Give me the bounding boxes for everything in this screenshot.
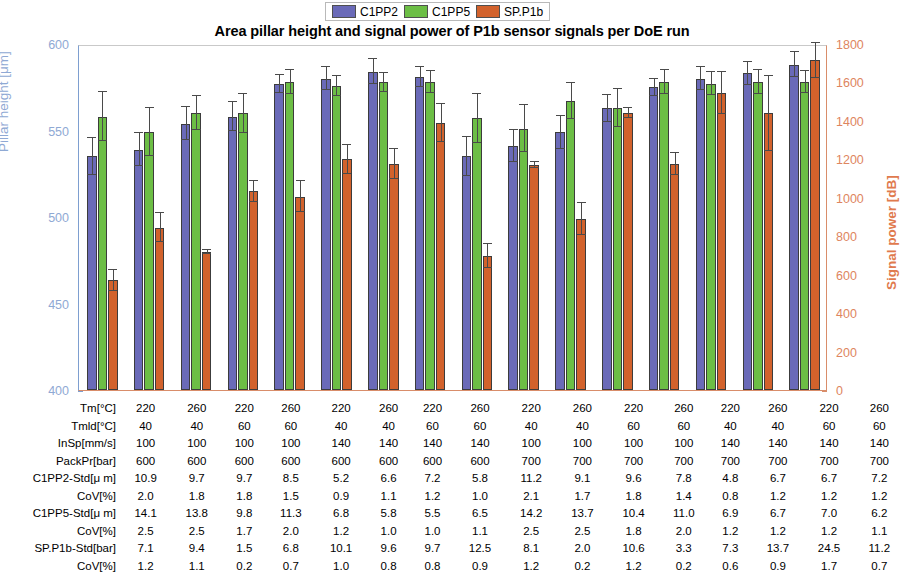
table-cell: 40 <box>557 418 608 436</box>
bar-c1pp2[interactable] <box>274 84 284 390</box>
error-cap-upper <box>342 144 351 145</box>
error-cap-upper <box>275 74 284 75</box>
table-cell: 1.7 <box>222 523 266 541</box>
error-bar <box>607 95 608 122</box>
error-cap-lower <box>426 92 435 93</box>
bar-sp-p1b[interactable] <box>202 252 212 390</box>
error-cap-lower <box>134 165 143 166</box>
bar-sp-p1b[interactable] <box>810 60 820 390</box>
bar-c1pp2[interactable] <box>789 65 799 390</box>
legend-item-c1pp5[interactable]: C1PP5 <box>404 5 470 19</box>
bar-c1pp5[interactable] <box>144 132 154 390</box>
left-tick-label: 500 <box>48 211 69 225</box>
bar-c1pp5[interactable] <box>285 82 295 390</box>
error-cap-upper <box>623 107 632 108</box>
table-cell: 9.7 <box>411 540 455 558</box>
bar-c1pp2[interactable] <box>462 156 472 390</box>
bar-c1pp5[interactable] <box>566 101 576 390</box>
bar-c1pp5[interactable] <box>706 84 716 390</box>
bar-c1pp5[interactable] <box>191 113 201 390</box>
table-cell: 5.8 <box>454 470 505 488</box>
bar-c1pp2[interactable] <box>368 72 378 390</box>
bar-c1pp5[interactable] <box>613 108 623 390</box>
table-cell: 600 <box>454 453 505 471</box>
bar-sp-p1b[interactable] <box>483 256 493 390</box>
bar-c1pp2[interactable] <box>508 146 518 390</box>
table-cell: 1.0 <box>411 523 455 541</box>
bar-sp-p1b[interactable] <box>717 93 727 390</box>
right-axis-title: Signal power [dB] <box>884 175 899 290</box>
table-cell: 220 <box>315 400 366 418</box>
bar-sp-p1b[interactable] <box>576 219 586 390</box>
bar-sp-p1b[interactable] <box>529 165 539 390</box>
error-cap-upper <box>800 70 809 71</box>
table-cell: 2.0 <box>120 488 171 506</box>
bar-c1pp2[interactable] <box>321 79 331 390</box>
bar-sp-p1b[interactable] <box>249 191 259 390</box>
error-bar <box>466 137 467 176</box>
table-cell: 700 <box>803 453 854 471</box>
bar-c1pp5[interactable] <box>332 86 342 390</box>
error-cap-upper <box>530 161 539 162</box>
bar-c1pp2[interactable] <box>87 156 97 390</box>
table-cell: 1.8 <box>171 488 222 506</box>
table-cell: 60 <box>454 418 505 436</box>
error-cap-lower <box>389 178 398 179</box>
bar-c1pp5[interactable] <box>659 82 669 390</box>
table-cell: 0.9 <box>454 558 505 576</box>
table-cell: 1.1 <box>171 558 222 576</box>
bar-c1pp5[interactable] <box>753 82 763 390</box>
table-cell: 700 <box>752 453 803 471</box>
bar-c1pp2[interactable] <box>134 150 144 390</box>
table-cell: 6.7 <box>803 470 854 488</box>
bar-sp-p1b[interactable] <box>295 197 305 390</box>
table-cell: 1.1 <box>855 523 904 541</box>
left-tick-label: 450 <box>48 298 69 312</box>
table-cell: 1.1 <box>454 523 505 541</box>
bar-sp-p1b[interactable] <box>764 113 774 390</box>
error-cap-lower <box>623 117 632 118</box>
table-cell: 100 <box>120 435 171 453</box>
bar-c1pp5[interactable] <box>472 118 482 390</box>
bar-c1pp2[interactable] <box>415 77 425 390</box>
bar-sp-p1b[interactable] <box>389 164 399 390</box>
table-cell: 140 <box>315 435 366 453</box>
bar-sp-p1b[interactable] <box>342 159 352 390</box>
bar-sp-p1b[interactable] <box>155 228 165 390</box>
legend-item-c1pp2[interactable]: C1PP2 <box>332 5 398 19</box>
bar-c1pp2[interactable] <box>555 132 565 390</box>
bar-c1pp2[interactable] <box>181 124 191 390</box>
error-cap-lower <box>790 76 799 77</box>
bar-c1pp5[interactable] <box>98 117 108 390</box>
bar-group <box>734 46 781 390</box>
right-tick-label: 400 <box>836 307 857 321</box>
bar-c1pp5[interactable] <box>238 113 248 390</box>
bar-c1pp5[interactable] <box>425 82 435 390</box>
bar-c1pp5[interactable] <box>379 82 389 390</box>
table-cell: 220 <box>608 400 659 418</box>
bar-sp-p1b[interactable] <box>670 164 680 390</box>
table-row-label: Tm[°C] <box>0 400 120 418</box>
bar-c1pp5[interactable] <box>519 129 529 390</box>
table-cell: 10.6 <box>608 540 659 558</box>
table-cell: 11.2 <box>855 540 904 558</box>
error-bar <box>513 130 514 161</box>
legend-item-sp-p1b[interactable]: SP.P1b <box>476 5 543 19</box>
table-cell: 600 <box>222 453 266 471</box>
bar-c1pp2[interactable] <box>602 108 612 390</box>
bar-c1pp2[interactable] <box>743 73 753 390</box>
error-cap-lower <box>238 132 247 133</box>
table-cell: 0.8 <box>708 488 752 506</box>
bar-group <box>313 46 360 390</box>
bar-sp-p1b[interactable] <box>108 280 118 390</box>
error-cap-upper <box>155 212 164 213</box>
bar-sp-p1b[interactable] <box>436 123 446 390</box>
error-cap-upper <box>389 148 398 149</box>
error-bar <box>336 76 337 96</box>
bar-c1pp2[interactable] <box>649 87 659 390</box>
bar-c1pp2[interactable] <box>228 117 238 390</box>
bar-sp-p1b[interactable] <box>623 113 633 390</box>
bar-c1pp2[interactable] <box>696 79 706 390</box>
error-cap-upper <box>321 66 330 67</box>
bar-c1pp5[interactable] <box>800 82 810 390</box>
